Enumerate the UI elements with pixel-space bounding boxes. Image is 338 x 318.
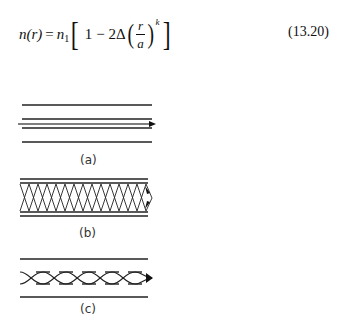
figure-c-label: (c) bbox=[80, 302, 96, 316]
figure-b bbox=[20, 179, 152, 216]
fiber-diagrams bbox=[0, 0, 338, 318]
figure-a bbox=[18, 105, 156, 142]
figure-b-label: (b) bbox=[79, 226, 96, 240]
figure-c bbox=[20, 259, 153, 297]
figure-a-label: (a) bbox=[80, 153, 97, 167]
